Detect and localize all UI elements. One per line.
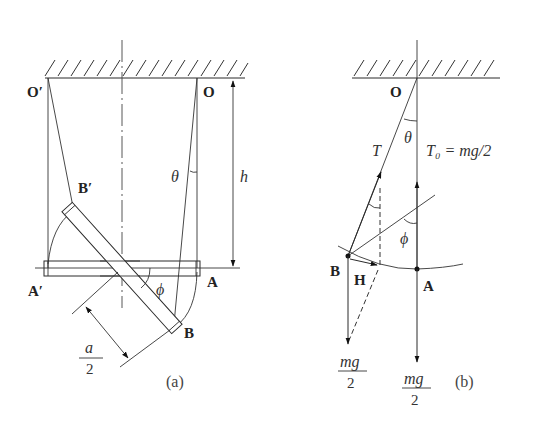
label-A-a: A [207, 274, 218, 290]
theta-arc-a [190, 171, 197, 172]
extension-line-center [72, 272, 118, 314]
ceiling-b [352, 60, 500, 78]
label-h: h [240, 168, 248, 185]
label-mg-numerator-A: mg [404, 370, 424, 388]
label-B-b: B [330, 263, 340, 279]
label-T0-equation: T₀ = mg/2 [426, 142, 491, 160]
arc-A-prime-B-prime [48, 212, 72, 264]
label-O-prime: O′ [27, 84, 43, 100]
label-A-b: A [423, 278, 434, 294]
label-phi-b: ϕ [400, 230, 408, 248]
string-O-B [174, 78, 197, 324]
ceiling-a [45, 60, 248, 78]
label-theta-b: θ [404, 129, 412, 146]
label-mg-denominator-B: 2 [347, 375, 355, 391]
label-H: H [354, 272, 366, 288]
label-O-b: O [390, 84, 402, 100]
label-phi-a: ϕ [156, 281, 164, 299]
label-mg-numerator-B: mg [340, 353, 360, 371]
diagram-canvas: O′ O B′ A′ A B θ ϕ h a 2 (a) [0, 0, 537, 427]
label-a-numerator: a [85, 339, 93, 356]
label-B-a: B [184, 325, 194, 341]
figure-b: O θ T T₀ = mg/2 ϕ B H A mg 2 mg 2 (b) [330, 40, 500, 408]
phi-arc-b [404, 219, 417, 224]
label-O-a: O [203, 84, 215, 100]
label-a-denominator: 2 [86, 361, 94, 377]
caption-b: (b) [455, 373, 474, 391]
label-mg-denominator-A: 2 [411, 392, 419, 408]
label-theta-a: θ [171, 168, 179, 185]
label-B-prime: B′ [78, 180, 92, 196]
label-A-prime: A′ [28, 283, 43, 299]
extension-line-end [120, 330, 170, 367]
caption-a: (a) [166, 373, 184, 391]
arc-A-B [176, 272, 197, 326]
rod-line-b [348, 195, 435, 256]
string-O-prime-B-prime [48, 78, 73, 207]
theta-arc-b-T [369, 204, 380, 208]
T-arrow [348, 172, 381, 256]
theta-arc-b [404, 119, 417, 121]
figure-a: O′ O B′ A′ A B θ ϕ h a 2 (a) [27, 40, 248, 391]
label-T: T [372, 142, 382, 159]
